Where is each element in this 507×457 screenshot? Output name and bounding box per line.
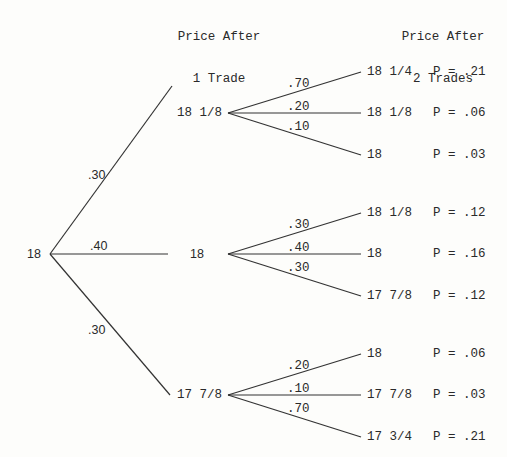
leaf-price-a3: 18 [367, 148, 382, 162]
edge-root-down [50, 254, 170, 395]
joint-prob-b3: P = .12 [433, 289, 486, 303]
joint-prob-c1: P = .06 [433, 347, 486, 361]
joint-prob-a1: P = .21 [433, 65, 486, 79]
leaf-price-c3: 17 3/4 [367, 430, 412, 444]
prob-root-mid: .40 [90, 239, 107, 253]
header-after-2-trades: Price After 2 Trades [384, 2, 502, 100]
leaf-price-b3: 17 7/8 [367, 289, 412, 303]
leaf-price-c1: 18 [367, 347, 382, 361]
prob-b3: .30 [287, 261, 310, 275]
prob-a3: .10 [287, 120, 310, 134]
leaf-price-c2: 17 7/8 [367, 388, 412, 402]
node-price-mid: 18 [190, 247, 204, 261]
node-price-down: 17 7/8 [177, 388, 222, 402]
leaf-price-a2: 18 1/8 [367, 106, 412, 120]
joint-prob-c2: P = .03 [433, 388, 486, 402]
joint-prob-a2: P = .06 [433, 106, 486, 120]
leaf-price-b2: 18 [367, 247, 382, 261]
prob-c2: .10 [287, 382, 310, 396]
prob-c1: .20 [287, 359, 310, 373]
prob-root-down: .30 [88, 323, 105, 337]
prob-b1: .30 [287, 218, 310, 232]
node-price-up: 18 1/8 [177, 106, 222, 120]
prob-a1: .70 [287, 77, 310, 91]
joint-prob-b1: P = .12 [433, 206, 486, 220]
prob-c3: .70 [287, 402, 310, 416]
joint-prob-c3: P = .21 [433, 430, 486, 444]
edge-root-up [50, 86, 172, 254]
root-price: 18 [27, 247, 41, 261]
prob-b2: .40 [287, 241, 310, 255]
joint-prob-a3: P = .03 [433, 148, 486, 162]
joint-prob-b2: P = .16 [433, 247, 486, 261]
leaf-price-b1: 18 1/8 [367, 206, 412, 220]
header-after-1-trade: Price After 1 Trade [160, 2, 278, 100]
leaf-price-a1: 18 1/4 [367, 65, 412, 79]
prob-root-up: .30 [88, 168, 105, 182]
prob-a2: .20 [287, 100, 310, 114]
